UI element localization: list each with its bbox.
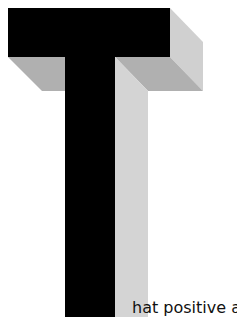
body-text-fragment: hat positive a	[132, 298, 237, 317]
drop-cap-t-icon	[0, 0, 237, 317]
t-bar-underside-left	[8, 57, 65, 91]
t-stem-side	[115, 57, 148, 317]
